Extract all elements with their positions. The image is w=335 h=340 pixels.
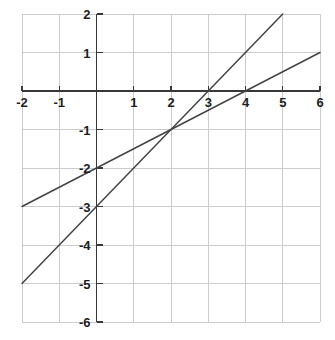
x-tick-label: 3 xyxy=(205,95,212,110)
y-tick-label: 2 xyxy=(83,7,90,22)
chart-canvas: -2-1123456 21-1-2-3-4-5-6 xyxy=(0,0,335,340)
x-tick-label: 4 xyxy=(242,95,250,110)
y-tick-label: -6 xyxy=(79,315,91,330)
chart-background xyxy=(0,0,335,340)
y-tick-label: -3 xyxy=(79,200,91,215)
x-tick-label: 6 xyxy=(316,95,323,110)
y-tick-label: -1 xyxy=(79,123,91,138)
y-tick-label: -5 xyxy=(79,277,91,292)
coordinate-plane-chart: -2-1123456 21-1-2-3-4-5-6 xyxy=(0,0,335,340)
x-tick-label: 1 xyxy=(130,95,137,110)
x-tick-label: -1 xyxy=(53,95,65,110)
y-tick-label: 1 xyxy=(83,46,90,61)
x-tick-label: -2 xyxy=(16,95,28,110)
y-tick-label: -4 xyxy=(79,238,91,253)
y-tick-label: -2 xyxy=(79,161,91,176)
x-tick-label: 2 xyxy=(167,95,174,110)
x-tick-label: 5 xyxy=(279,95,286,110)
